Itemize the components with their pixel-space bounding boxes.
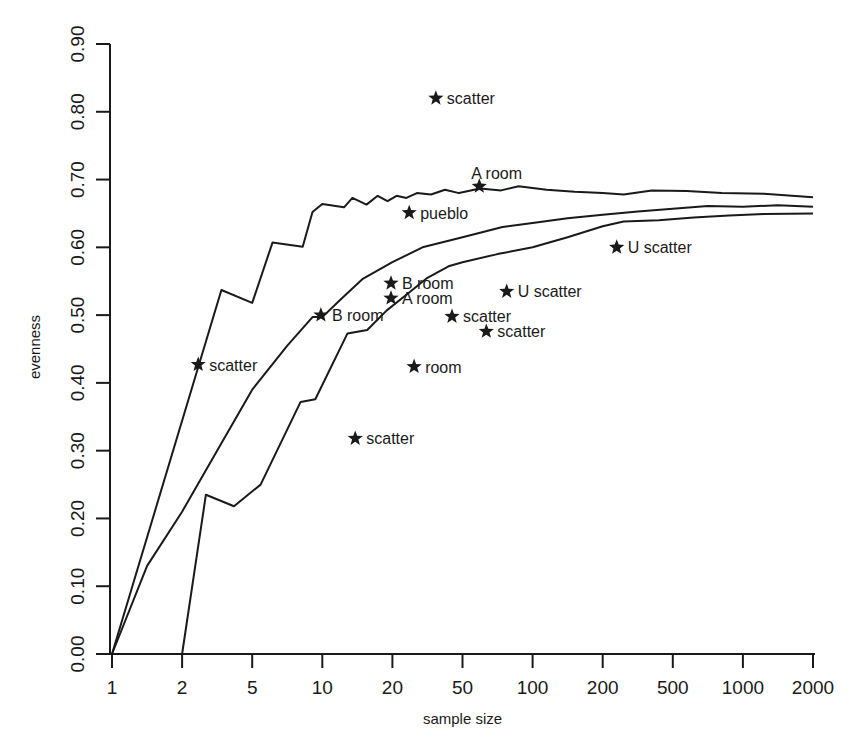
curve-lower-bound (182, 213, 813, 654)
x-tick-label: 500 (657, 677, 689, 698)
star-marker-icon (444, 309, 459, 323)
x-axis-ticks: 12510205010020050010002000 (107, 654, 834, 698)
star-marker-icon (407, 359, 422, 374)
star-marker-icon (348, 431, 363, 445)
point-label: scatter (497, 323, 546, 340)
labeled-point: scatter (428, 90, 495, 107)
x-tick-label: 2 (177, 677, 188, 698)
labeled-point: B room (313, 307, 383, 324)
curves (112, 186, 813, 654)
point-label: scatter (366, 430, 415, 447)
labeled-point: scatter (348, 430, 415, 447)
y-tick-label: 0.10 (67, 568, 88, 605)
y-tick-label: 0.70 (67, 161, 88, 198)
x-tick-label: 50 (452, 677, 473, 698)
point-label: U scatter (628, 239, 693, 256)
point-label: A room (471, 165, 522, 182)
x-tick-label: 100 (517, 677, 549, 698)
x-tick-label: 2000 (792, 677, 834, 698)
point-label: B room (332, 307, 384, 324)
y-tick-label: 0.90 (67, 26, 88, 63)
point-label: U scatter (518, 283, 583, 300)
point-label: scatter (447, 90, 496, 107)
curve-upper-bound (112, 186, 813, 654)
labeled-point: U scatter (499, 283, 582, 300)
x-tick-label: 1000 (722, 677, 764, 698)
star-marker-icon (479, 323, 494, 337)
x-axis-title: sample size (423, 710, 502, 727)
x-tick-label: 10 (312, 677, 333, 698)
y-tick-label: 0.80 (67, 93, 88, 130)
y-tick-label: 0.30 (67, 432, 88, 469)
point-label: pueblo (420, 205, 468, 222)
evenness-vs-sample-size-chart: 0.000.100.200.300.400.500.600.700.800.90… (0, 0, 863, 751)
point-label: scatter (209, 357, 258, 374)
star-marker-icon (402, 205, 417, 219)
y-tick-label: 0.40 (67, 364, 88, 401)
point-label: A room (402, 290, 453, 307)
star-marker-icon (499, 283, 514, 298)
x-tick-label: 20 (382, 677, 403, 698)
y-axis-title: evenness (26, 315, 43, 379)
axes: 0.000.100.200.300.400.500.600.700.800.90… (26, 26, 834, 727)
curve-expected (112, 205, 813, 654)
labeled-point: scatter (479, 323, 546, 340)
x-tick-label: 200 (587, 677, 619, 698)
y-tick-label: 0.60 (67, 229, 88, 266)
labeled-point: room (407, 359, 462, 376)
y-axis-ticks: 0.000.100.200.300.400.500.600.700.800.90 (67, 26, 110, 673)
labeled-point: pueblo (402, 205, 469, 222)
labeled-point: A room (471, 165, 522, 192)
star-marker-icon (609, 239, 624, 254)
star-marker-icon (313, 307, 328, 322)
point-label: room (425, 359, 461, 376)
x-tick-label: 1 (107, 677, 118, 698)
x-tick-label: 5 (247, 677, 258, 698)
y-tick-label: 0.20 (67, 500, 88, 537)
star-marker-icon (428, 90, 443, 105)
y-tick-label: 0.50 (67, 297, 88, 334)
star-marker-icon (383, 275, 398, 289)
labeled-points: scatterA roompuebloU scatterB roomA room… (191, 90, 693, 447)
y-tick-label: 0.00 (67, 636, 88, 673)
labeled-point: U scatter (609, 239, 692, 256)
